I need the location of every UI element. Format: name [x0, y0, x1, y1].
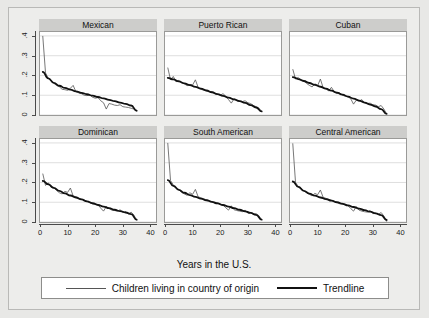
chart-panel: Mexican [39, 19, 157, 116]
x-axis-tick [123, 224, 124, 227]
panel-title: South American [164, 126, 282, 138]
chart-legend: Children living in country of origin Tre… [41, 277, 389, 299]
y-axis-tick [32, 143, 35, 144]
x-axis-tick [275, 224, 276, 227]
y-axis-tick-label: .2 [20, 68, 29, 82]
x-axis-line [39, 224, 157, 225]
y-axis-tick [32, 163, 35, 164]
x-axis-tick-label: 20 [87, 228, 103, 237]
x-axis-tick-label: 0 [32, 228, 48, 237]
x-axis-tick-label: 10 [60, 228, 76, 237]
x-axis-tick-label: 30 [115, 228, 131, 237]
chart-panel: Puerto Rican [164, 19, 282, 116]
x-axis-line [164, 224, 282, 225]
x-axis-tick [193, 224, 194, 227]
x-axis-tick [95, 224, 96, 227]
x-axis-tick [68, 224, 69, 227]
chart-figure: Mexican0.1.2.3.4Puerto RicanCubanDominic… [8, 7, 420, 310]
y-axis-tick-label: .3 [20, 155, 29, 169]
plot-area [39, 138, 157, 223]
y-axis-tick-label: .4 [20, 135, 29, 149]
x-axis-tick [40, 224, 41, 227]
y-axis-tick [32, 75, 35, 76]
chart-panel: South American [164, 126, 282, 223]
y-axis-tick [32, 222, 35, 223]
y-axis-tick [32, 182, 35, 183]
y-axis-tick-label: .2 [20, 175, 29, 189]
y-axis-tick-label: .1 [20, 195, 29, 209]
chart-panel: Cuban [289, 19, 407, 116]
x-axis-tick [373, 224, 374, 227]
x-axis-tick [290, 224, 291, 227]
x-axis-tick [318, 224, 319, 227]
y-axis-tick-label: .3 [20, 48, 29, 62]
panel-title: Central American [289, 126, 407, 138]
y-axis-tick [32, 115, 35, 116]
y-axis-tick-label: .1 [20, 88, 29, 102]
x-axis-tick [165, 224, 166, 227]
y-axis-tick-label: .4 [20, 28, 29, 42]
x-axis-tick [248, 224, 249, 227]
x-axis-tick [220, 224, 221, 227]
legend-label-data: Children living in country of origin [112, 283, 259, 294]
x-axis-title: Years in the U.S. [9, 259, 419, 270]
panel-title: Cuban [289, 19, 407, 31]
y-axis-tick [32, 56, 35, 57]
plot-area [39, 31, 157, 116]
y-axis-tick [32, 202, 35, 203]
legend-label-trend: Trendline [323, 283, 364, 294]
y-axis-tick [32, 95, 35, 96]
y-axis-tick [32, 36, 35, 37]
x-axis-tick-label: 10 [310, 228, 326, 237]
x-axis-line [289, 224, 407, 225]
plot-area [289, 31, 407, 116]
panel-title: Puerto Rican [164, 19, 282, 31]
y-axis-tick-label: 0 [20, 215, 29, 229]
x-axis-tick-label: 30 [365, 228, 381, 237]
chart-panel: Central American [289, 126, 407, 223]
legend-entry-trend: Trendline [277, 283, 364, 294]
x-axis-tick-label: 30 [240, 228, 256, 237]
panel-title: Mexican [39, 19, 157, 31]
x-axis-tick [400, 224, 401, 227]
plot-area [164, 138, 282, 223]
y-axis-tick-label: 0 [20, 108, 29, 122]
x-axis-tick-label: 0 [282, 228, 298, 237]
x-axis-tick [345, 224, 346, 227]
y-axis-line [35, 138, 36, 223]
legend-entry-data: Children living in country of origin [66, 283, 259, 294]
x-axis-tick-label: 20 [212, 228, 228, 237]
x-axis-tick-label: 20 [337, 228, 353, 237]
x-axis-tick-label: 0 [157, 228, 173, 237]
x-axis-tick-label: 10 [185, 228, 201, 237]
plot-area [164, 31, 282, 116]
panel-title: Dominican [39, 126, 157, 138]
y-axis-line [35, 31, 36, 116]
thin-line-icon [66, 288, 106, 289]
plot-area [289, 138, 407, 223]
x-axis-tick-label: 40 [392, 228, 408, 237]
x-axis-tick [150, 224, 151, 227]
chart-panel: Dominican [39, 126, 157, 223]
thick-line-icon [277, 287, 317, 289]
